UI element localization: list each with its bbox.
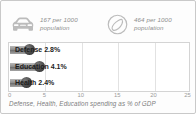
bar-label-defense: Defense 2.8%: [15, 44, 60, 55]
x-tick-label: 0: [8, 92, 11, 98]
stat-cars-label: 167 per 1000 population: [37, 16, 78, 31]
x-tick-label: 15: [114, 92, 120, 98]
car-icon: [9, 11, 37, 37]
bar-row: Health 2.4%: [9, 76, 189, 93]
stat-phones-label: 464 per 1000 population: [131, 16, 172, 31]
stat-phones: 464 per 1000 population: [99, 7, 193, 41]
bar-chart: Defense 2.8%Education 4.1%Health 2.4%: [8, 42, 190, 92]
bar-row: Education 4.1%: [9, 60, 189, 77]
x-tick-label: 25: [184, 92, 190, 98]
bar-row: Defense 2.8%: [9, 43, 189, 60]
chart-caption: Defense, Health, Education spending as %…: [9, 100, 191, 107]
stat-cars: 167 per 1000 population: [5, 7, 99, 41]
chart-plot-area: Defense 2.8%Education 4.1%Health 2.4%: [9, 43, 189, 91]
x-tick-label: 20: [150, 92, 156, 98]
x-tick-label: 10: [78, 92, 84, 98]
stats-row: 167 per 1000 population 464 per 1000 pop…: [1, 7, 196, 41]
bar-label-education: Education 4.1%: [15, 61, 67, 72]
phone-dial-icon: [103, 11, 131, 37]
bar-label-health: Health 2.4%: [15, 77, 54, 88]
x-tick-label: 5: [43, 92, 46, 98]
infographic-panel: 167 per 1000 population 464 per 1000 pop…: [0, 0, 196, 114]
